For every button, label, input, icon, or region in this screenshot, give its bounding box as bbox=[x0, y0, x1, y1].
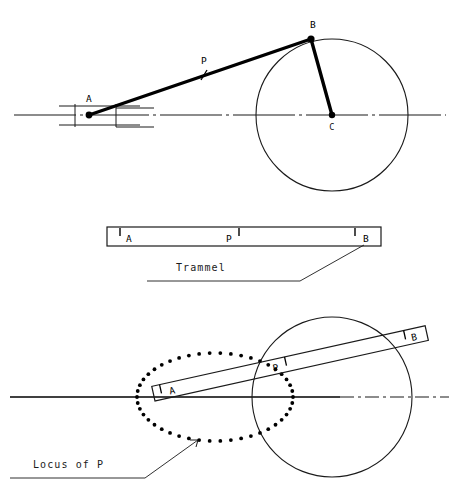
locus-dot bbox=[208, 351, 212, 355]
locus-dot bbox=[274, 423, 278, 427]
locus-dot bbox=[177, 434, 181, 438]
locus-dot bbox=[285, 378, 289, 382]
top-label-b: B bbox=[310, 19, 316, 30]
locus-dot bbox=[218, 439, 222, 443]
locus-dot bbox=[160, 427, 164, 431]
locus-dot bbox=[280, 418, 284, 422]
locus-dot bbox=[160, 363, 164, 367]
locus-dot bbox=[249, 434, 253, 438]
locus-dot bbox=[208, 439, 212, 443]
trammel-label-a: A bbox=[126, 233, 132, 244]
top-label-c: C bbox=[329, 122, 334, 132]
locus-dot bbox=[229, 352, 233, 356]
locus-dot bbox=[135, 395, 139, 399]
figure-canvas: A P B C A P B Trammel bbox=[0, 0, 459, 497]
locus-dot bbox=[239, 354, 243, 358]
locus-dot bbox=[146, 418, 150, 422]
trammel-label-b: B bbox=[363, 233, 369, 244]
trammel-bar-outline bbox=[107, 227, 381, 246]
locus-dot bbox=[153, 423, 157, 427]
point-c-marker bbox=[329, 112, 335, 118]
locus-dot bbox=[142, 413, 146, 417]
top-label-p: P bbox=[201, 55, 207, 66]
link-ab bbox=[89, 39, 311, 115]
locus-dot bbox=[136, 401, 140, 405]
trammel-label-p: P bbox=[226, 233, 232, 244]
locus-dot bbox=[168, 431, 172, 435]
locus-dot bbox=[187, 354, 191, 358]
point-b-marker bbox=[307, 35, 314, 42]
technical-drawing-figure: A P B C A P B Trammel bbox=[0, 0, 459, 497]
locus-dot bbox=[288, 383, 292, 387]
locus-dot bbox=[138, 407, 142, 411]
locus-dot bbox=[249, 356, 253, 360]
locus-dot bbox=[266, 427, 270, 431]
locus-dot bbox=[285, 413, 289, 417]
locus-dot bbox=[258, 431, 262, 435]
top-label-a: A bbox=[86, 93, 92, 104]
locus-diagram-group: A P B Locus of P bbox=[10, 317, 449, 478]
locus-dot bbox=[291, 395, 295, 399]
locus-dot bbox=[218, 351, 222, 355]
locus-caption: Locus of P bbox=[33, 459, 104, 470]
locus-dot bbox=[146, 372, 150, 376]
locus-dot bbox=[229, 438, 233, 442]
locus-dot bbox=[290, 389, 294, 393]
trammel-diagram-group: A P B Trammel bbox=[107, 227, 381, 281]
locus-dot bbox=[136, 389, 140, 393]
locus-dot bbox=[138, 383, 142, 387]
locus-dot bbox=[153, 367, 157, 371]
locus-dot bbox=[142, 378, 146, 382]
locus-dot bbox=[168, 359, 172, 363]
locus-dot bbox=[197, 352, 201, 356]
trammel-caption: Trammel bbox=[176, 262, 226, 273]
point-a-marker bbox=[86, 112, 93, 119]
locus-dot bbox=[288, 407, 292, 411]
tilted-bar-outline bbox=[152, 326, 429, 401]
locus-dot bbox=[239, 437, 243, 441]
tilted-trammel-bar: A P B bbox=[152, 326, 429, 401]
crank-bc bbox=[311, 39, 332, 115]
top-diagram-group: A P B C bbox=[14, 19, 446, 191]
locus-dot bbox=[177, 356, 181, 360]
locus-dot bbox=[290, 401, 294, 405]
